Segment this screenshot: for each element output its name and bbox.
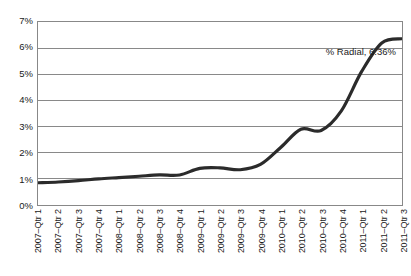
x-tick-label: 2011–Qtr 2 — [379, 209, 389, 252]
x-tick-label: 2009–Qtr 4 — [257, 209, 267, 253]
x-tick-label: 2008–Qtr 3 — [155, 209, 165, 253]
x-tick-label: 2010–Qtr 3 — [318, 209, 328, 253]
x-tick-label: 2010–Qtr 4 — [338, 209, 348, 253]
line-chart: 0%1%2%3%4%5%6%7% % Radial, 6.36% 2007–Qt… — [0, 0, 411, 276]
x-tick-label: 2011–Qtr 3 — [399, 209, 409, 252]
y-axis: 0%1%2%3%4%5%6%7% — [0, 0, 33, 276]
y-tick-label: 7% — [0, 16, 33, 26]
series-path — [38, 39, 402, 183]
x-tick-label: 2010–Qtr 2 — [297, 209, 307, 253]
y-tick-label: 0% — [0, 201, 33, 211]
x-tick-label: 2008–Qtr 2 — [135, 209, 145, 253]
plot-area: % Radial, 6.36% — [37, 21, 403, 206]
x-tick-label: 2007–Qtr 3 — [74, 209, 84, 253]
x-tick-label: 2010–Qtr 1 — [277, 209, 287, 253]
y-tick-label: 4% — [0, 95, 33, 105]
x-tick-label: 2008–Qtr 4 — [175, 209, 185, 253]
x-axis: 2007–Qtr 12007–Qtr 22007–Qtr 32007–Qtr 4… — [37, 206, 403, 276]
y-tick-label: 1% — [0, 175, 33, 185]
x-tick-label: 2007–Qtr 1 — [33, 209, 43, 253]
y-tick-label: 5% — [0, 69, 33, 79]
series-data-label: % Radial, 6.36% — [326, 46, 396, 57]
x-tick-label: 2011–Qtr 1 — [358, 209, 368, 252]
y-tick-label: 6% — [0, 42, 33, 52]
x-tick-label: 2009–Qtr 1 — [196, 209, 206, 253]
x-tick-label: 2008–Qtr 1 — [114, 209, 124, 253]
y-tick-label: 2% — [0, 148, 33, 158]
x-tick-label: 2007–Qtr 2 — [53, 209, 63, 253]
y-tick-label: 3% — [0, 122, 33, 132]
x-tick-label: 2009–Qtr 3 — [236, 209, 246, 253]
x-tick-label: 2009–Qtr 2 — [216, 209, 226, 253]
x-tick-label: 2007–Qtr 4 — [94, 209, 104, 253]
